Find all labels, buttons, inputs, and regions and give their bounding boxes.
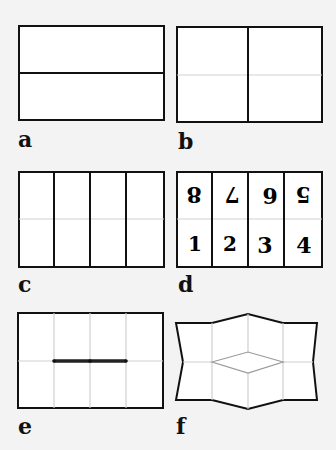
panel-label-f: f (176, 415, 185, 437)
folding-diagram: 8 7 6 5 1 2 3 4 (0, 0, 336, 450)
panel-f (176, 314, 317, 409)
panel-label-e: e (18, 415, 32, 437)
panel-label-a: a (18, 128, 32, 150)
figure-canvas: 8 7 6 5 1 2 3 4 (0, 0, 336, 450)
page-number: 6 (262, 183, 277, 209)
panel-d: 8 7 6 5 1 2 3 4 (177, 172, 322, 267)
panel-e (18, 313, 163, 408)
page-number: 4 (296, 232, 311, 258)
panel-b (177, 27, 322, 122)
page-number: 2 (223, 232, 237, 256)
panel-label-d: d (178, 273, 193, 295)
page-number: 3 (257, 232, 272, 258)
panel-label-c: c (18, 273, 31, 295)
page-number: 7 (224, 182, 239, 208)
page-number: 8 (186, 182, 201, 208)
page-number: 1 (188, 232, 202, 256)
panel-a (19, 26, 164, 120)
panel-label-b: b (178, 130, 193, 152)
panel-c (19, 172, 164, 267)
page-number: 5 (295, 182, 310, 208)
